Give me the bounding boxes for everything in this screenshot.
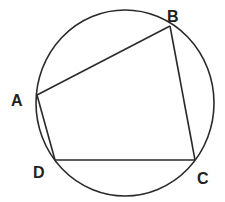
diagram-canvas: A B C D — [0, 0, 225, 202]
cyclic-quadrilateral-figure: A B C D — [0, 0, 225, 202]
vertex-label-c: C — [197, 170, 209, 187]
quadrilateral-sides — [37, 26, 195, 160]
vertex-label-b: B — [167, 8, 179, 25]
side-bc — [170, 26, 195, 160]
side-ab — [37, 26, 170, 95]
circumcircle — [36, 10, 214, 196]
vertex-label-d: D — [33, 164, 45, 181]
vertex-label-a: A — [11, 92, 23, 109]
